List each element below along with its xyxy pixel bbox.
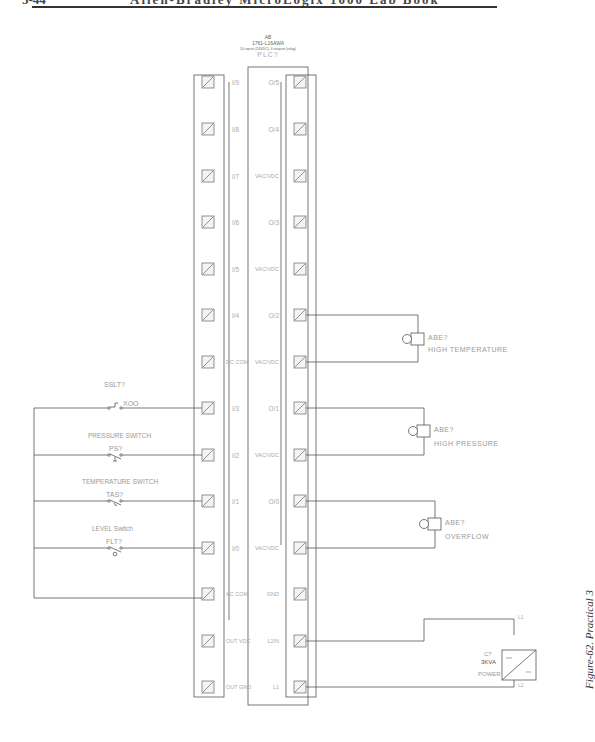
high-temperature-alarm-label: HIGH TEMPERATURE: [428, 346, 508, 353]
terminal-label-right: VAC/VDC: [255, 452, 279, 458]
terminal-label-left: I/2: [232, 452, 239, 459]
temperature-switch-symbol: [108, 500, 122, 506]
terminal-label-right: O/4: [269, 126, 279, 133]
terminal-label-left: I/7: [232, 173, 239, 180]
terminal-label-right: L2/N: [267, 638, 279, 644]
power-supply-terminal-top: L1: [518, 614, 524, 620]
power-supply-tag: C?: [484, 651, 492, 657]
temperature-switch-tag: TAS?: [106, 491, 123, 498]
pressure-switch-symbol: [108, 454, 122, 461]
terminal-label-left: DC COM: [226, 359, 248, 365]
terminal-label-right: O/0: [269, 498, 279, 505]
selector-switch-contact: XOO: [123, 400, 139, 407]
terminal-label-left: I/8: [232, 126, 239, 133]
output-wiring: [306, 315, 514, 687]
terminal-label-left: I/6: [232, 219, 239, 226]
terminal-label-right: O/1: [269, 405, 279, 412]
overflow-alarm-label: OVERFLOW: [445, 533, 489, 540]
level-switch-tag: FLT?: [106, 538, 122, 545]
terminal-label-right: O/5: [269, 79, 279, 86]
high-pressure-alarm-label: HIGH PRESSURE: [434, 440, 498, 447]
terminal-label-left: I/1: [232, 498, 239, 505]
right-terminal-strip: [286, 75, 316, 697]
high-temperature-alarm-icon: [403, 333, 425, 345]
terminal-label-right: L1: [273, 684, 279, 690]
terminal-label-left: OUT VDC: [226, 638, 251, 644]
overflow-alarm-icon: [420, 518, 442, 530]
terminal-label-right: VAC/VDC: [255, 173, 279, 179]
temperature-switch-label: TEMPERATURE SWITCH: [82, 478, 158, 485]
terminal-label-left: OUT GND: [226, 684, 251, 690]
right-terminals: [294, 76, 306, 693]
figure-caption: Figure-62. Practical 3: [583, 590, 595, 710]
terminal-label-left: I/0: [232, 545, 239, 552]
pressure-switch-label: PRESSURE SWITCH: [88, 432, 151, 439]
power-supply-label: POWER: [478, 671, 501, 677]
terminal-label-left: I/3: [232, 405, 239, 412]
left-terminal-strip: [194, 75, 224, 697]
terminal-label-right: O/3: [269, 219, 279, 226]
selector-switch-tag: SSLT?: [104, 381, 125, 388]
terminal-label-left: I/4: [232, 312, 239, 319]
level-switch-symbol: [108, 547, 122, 556]
terminal-label-right: VAC/VDC: [255, 545, 279, 551]
selector-switch-symbol: [108, 403, 122, 409]
pressure-switch-tag: PS?: [109, 445, 122, 452]
power-supply-icon: [502, 650, 536, 680]
terminal-label-right: GND: [267, 591, 279, 597]
level-switch-label: LEVEL Switch: [92, 525, 133, 532]
overflow-alarm-tag: ABE?: [445, 519, 465, 526]
power-supply-terminal-bottom: L2: [518, 682, 524, 688]
terminal-label-right: O/2: [269, 312, 279, 319]
high-temperature-alarm-tag: ABE?: [428, 334, 448, 341]
high-pressure-alarm-tag: ABE?: [434, 426, 454, 433]
terminal-label-right: VAC/VDC: [255, 266, 279, 272]
plc-body: [248, 67, 308, 705]
high-pressure-alarm-icon: [409, 425, 431, 437]
terminal-label-left: AC COM: [226, 591, 248, 597]
terminal-label-left: I/5: [232, 266, 239, 273]
power-supply-rating: 3KVA: [481, 659, 496, 665]
terminal-label-left: I/9: [232, 79, 239, 86]
terminal-label-right: VAC/VDC: [255, 359, 279, 365]
left-terminals: [202, 76, 214, 693]
